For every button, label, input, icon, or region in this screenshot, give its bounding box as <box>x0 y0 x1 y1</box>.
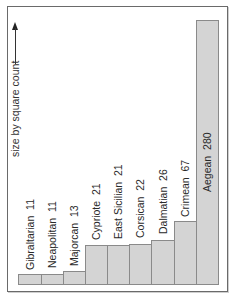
bar-cypriote <box>85 245 108 285</box>
bar-label: East Sicilian 21 <box>112 164 124 239</box>
bar-label: Crimean 67 <box>179 160 191 217</box>
bar-label: Majorcan 13 <box>68 205 80 266</box>
bar-crimean <box>174 221 197 285</box>
bar-label: Cypriote 21 <box>90 183 102 240</box>
bar-label: Corsican 22 <box>134 179 146 238</box>
bar-majorcan <box>63 271 86 285</box>
bar-neapolitan <box>41 274 64 285</box>
bar-corsican <box>129 244 152 285</box>
bar-gibraltarian <box>18 274 42 285</box>
axis-arrow-line <box>15 28 16 64</box>
bar-east-sicilian <box>107 245 130 285</box>
bar-label: Neapolitan 11 <box>46 201 58 268</box>
bar-dalmatian <box>151 240 175 285</box>
bar-label: Dalmatian 26 <box>157 169 169 234</box>
y-axis-label: size by square count <box>9 61 21 157</box>
bar-label: Aegean 280 <box>201 132 213 192</box>
bar-label: Gibraltarian 11 <box>24 199 36 270</box>
